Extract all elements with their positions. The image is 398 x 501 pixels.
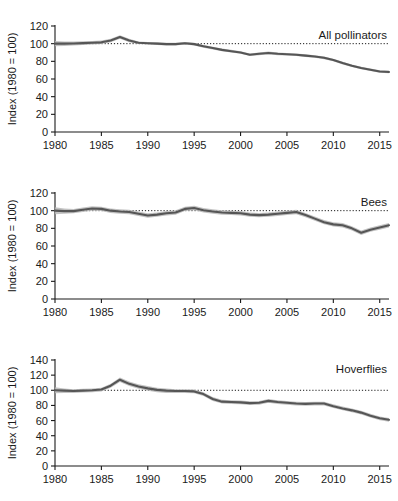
x-tick-label: 1980: [43, 139, 67, 151]
y-tick-label: 40: [36, 258, 48, 270]
x-tick-label: 1990: [136, 139, 160, 151]
x-tick-label: 2000: [228, 306, 252, 318]
x-tick-label: 1985: [89, 473, 113, 485]
y-tick-label: 20: [36, 275, 48, 287]
y-tick-label: 40: [36, 430, 48, 442]
x-tick-label: 2010: [321, 306, 345, 318]
panel-title: Hoverflies: [336, 363, 387, 375]
x-tick-label: 1990: [136, 306, 160, 318]
x-tick-label: 1980: [43, 473, 67, 485]
y-tick-label: 120: [30, 187, 48, 199]
x-tick-label: 2000: [228, 139, 252, 151]
y-tick-label: 40: [36, 91, 48, 103]
y-tick-label: 0: [42, 126, 48, 138]
y-tick-label: 100: [30, 205, 48, 217]
y-tick-label: 120: [30, 20, 48, 32]
y-tick-label: 20: [36, 108, 48, 120]
x-tick-label: 2010: [321, 473, 345, 485]
x-tick-label: 2005: [275, 139, 299, 151]
x-tick-label: 1995: [182, 306, 206, 318]
y-tick-label: 120: [30, 369, 48, 381]
x-tick-label: 2005: [275, 473, 299, 485]
x-tick-label: 2015: [367, 306, 391, 318]
y-axis-title: Index (1980 = 100): [6, 33, 18, 126]
x-tick-label: 1990: [136, 473, 160, 485]
x-tick-label: 1980: [43, 306, 67, 318]
y-tick-label: 80: [36, 399, 48, 411]
y-tick-label: 60: [36, 415, 48, 427]
chart-panel-bees: 0204060801001201980198519901995200020052…: [0, 167, 398, 334]
y-axis-title: Index (1980 = 100): [6, 367, 18, 460]
panel-title: Bees: [361, 196, 387, 208]
panel-title: All pollinators: [319, 29, 388, 41]
x-tick-label: 1985: [89, 306, 113, 318]
y-tick-label: 0: [42, 460, 48, 472]
x-tick-label: 1995: [182, 473, 206, 485]
chart-panel-hoverflies: 0204060801001201401980198519901995200020…: [0, 334, 398, 501]
y-tick-label: 60: [36, 73, 48, 85]
y-tick-label: 20: [36, 445, 48, 457]
chart-panel-all-pollinators: 0204060801001201980198519901995200020052…: [0, 0, 398, 167]
y-tick-label: 0: [42, 293, 48, 305]
y-tick-label: 100: [30, 38, 48, 50]
pollinator-index-figure: 0204060801001201980198519901995200020052…: [0, 0, 398, 501]
x-tick-label: 2010: [321, 139, 345, 151]
confidence-band: [55, 377, 389, 421]
y-tick-label: 80: [36, 55, 48, 67]
x-tick-label: 2015: [367, 473, 391, 485]
x-tick-label: 2005: [275, 306, 299, 318]
y-axis-title: Index (1980 = 100): [6, 200, 18, 293]
x-tick-label: 2015: [367, 139, 391, 151]
x-tick-label: 1995: [182, 139, 206, 151]
series-line: [55, 37, 389, 72]
y-tick-label: 140: [30, 354, 48, 366]
y-tick-label: 60: [36, 240, 48, 252]
y-tick-label: 100: [30, 384, 48, 396]
x-tick-label: 1985: [89, 139, 113, 151]
x-tick-label: 2000: [228, 473, 252, 485]
y-tick-label: 80: [36, 222, 48, 234]
